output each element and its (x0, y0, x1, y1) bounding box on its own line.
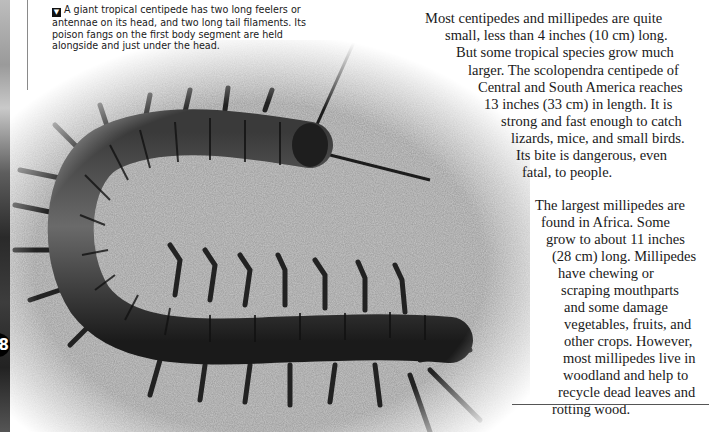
text-line: strong and fast enough to catch (501, 113, 682, 130)
text-line: lizards, mice, and small birds. (511, 130, 685, 147)
text-line: The largest millipedes are (535, 197, 685, 214)
text-line: Its bite is dangerous, even (516, 147, 667, 164)
text-line: fatal, to people. (522, 164, 612, 181)
caption-line: ▼A giant tropical centipede has two long… (52, 4, 312, 17)
text-line: other crops. However, (564, 333, 692, 350)
caption-line: alongside and just under the head. (52, 40, 312, 52)
facing-page-photo-edge: 8 (0, 0, 10, 432)
text-line: scraping mouthparts (561, 282, 679, 299)
text-line: and some damage (564, 299, 668, 316)
text-line: Central and South America reaches (478, 79, 683, 96)
page-number: 8 (0, 336, 9, 354)
photo-caption: ▼A giant tropical centipede has two long… (52, 4, 312, 52)
text-line: Most centipedes and millipedes are quite (425, 10, 662, 27)
text-line: recycle dead leaves and (558, 384, 695, 401)
text-line: have chewing or (558, 265, 654, 282)
text-line: grow to about 11 inches (546, 231, 685, 248)
text-line: But some tropical species grow much (456, 44, 674, 61)
caption-line: antennae on its head, and two long tail … (52, 17, 312, 29)
text-line: most millipedes live in (563, 350, 696, 367)
text-line: vegetables, fruits, and (564, 316, 691, 333)
text-line: larger. The scolopendra centipede of (468, 62, 679, 79)
section-divider-line (512, 404, 709, 405)
text-line: (28 cm) long. Millipedes (552, 248, 696, 265)
text-line: small, less than 4 inches (10 cm) long. (445, 27, 668, 44)
text-line: 13 inches (33 cm) in length. It is (484, 96, 672, 113)
text-line: woodland and help to (563, 367, 688, 384)
caption-text: A giant tropical centipede has two long … (64, 4, 301, 15)
page-number-badge: 8 (0, 333, 10, 357)
book-page: 8 (0, 0, 709, 432)
centipede-photo (10, 40, 530, 432)
centipede-illustration (10, 40, 530, 432)
caption-line: poison fangs on the first body segment a… (52, 29, 312, 41)
text-line: found in Africa. Some (541, 214, 670, 231)
caption-marker-icon: ▼ (52, 8, 61, 17)
